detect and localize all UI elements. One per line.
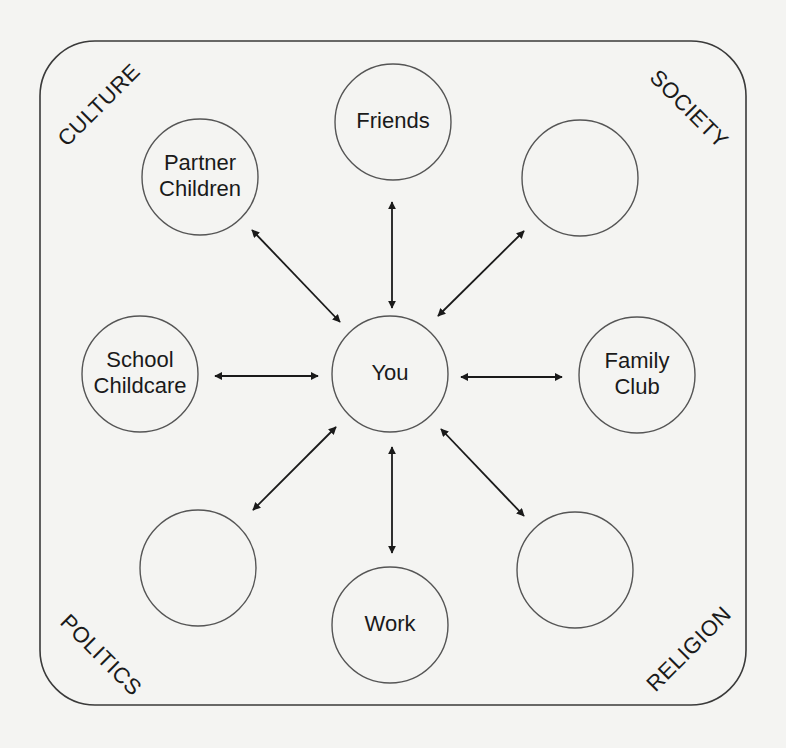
node-blank-top-right bbox=[522, 120, 638, 236]
node-blank-bottom-left bbox=[140, 510, 256, 626]
arrow-you-to-partner-children bbox=[252, 230, 340, 322]
arrow-you-to-blank-top-right bbox=[438, 231, 524, 316]
node-you: You bbox=[332, 316, 448, 432]
node-partner-children: PartnerChildren bbox=[142, 119, 258, 235]
node-blank-bottom-right bbox=[517, 512, 633, 628]
node-family-club: FamilyClub bbox=[579, 317, 695, 433]
node-label: Children bbox=[159, 176, 241, 201]
node-label: Friends bbox=[356, 108, 429, 133]
node-label: Work bbox=[365, 611, 417, 636]
relationship-nodes: YouFriendsPartnerChildrenSchoolChildcare… bbox=[82, 64, 695, 683]
label-society: SOCIETY bbox=[645, 65, 733, 153]
label-culture: CULTURE bbox=[53, 59, 145, 151]
node-label: School bbox=[106, 347, 173, 372]
node-circle bbox=[140, 510, 256, 626]
node-label: Club bbox=[614, 374, 659, 399]
node-work: Work bbox=[332, 567, 448, 683]
social-network-diagram: YouFriendsPartnerChildrenSchoolChildcare… bbox=[0, 0, 786, 748]
node-circle bbox=[517, 512, 633, 628]
node-label: Partner bbox=[164, 150, 236, 175]
node-circle bbox=[522, 120, 638, 236]
label-religion: RELIGION bbox=[641, 601, 736, 696]
arrow-you-to-blank-bottom-right bbox=[441, 429, 524, 516]
node-label: Family bbox=[605, 348, 670, 373]
arrow-you-to-blank-bottom-left bbox=[253, 427, 336, 510]
node-label: Childcare bbox=[94, 373, 187, 398]
node-school-childcare: SchoolChildcare bbox=[82, 316, 198, 432]
node-label: You bbox=[371, 360, 408, 385]
node-friends: Friends bbox=[335, 64, 451, 180]
label-politics: POLITICS bbox=[55, 609, 146, 700]
